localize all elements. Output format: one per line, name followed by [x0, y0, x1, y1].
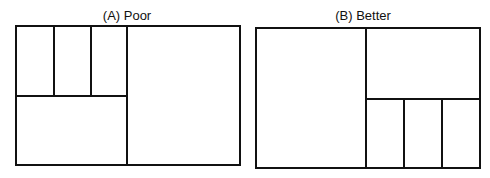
layout-diagram — [0, 0, 490, 178]
panel-b-better-layout — [256, 28, 480, 168]
panel-a-poor-layout — [16, 26, 240, 165]
